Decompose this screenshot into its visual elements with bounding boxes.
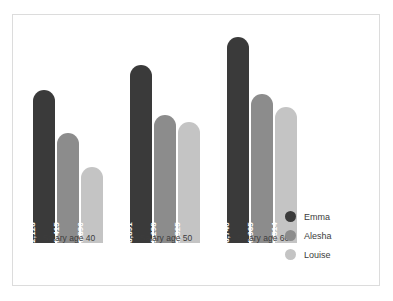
legend-label-emma: Emma <box>304 212 330 222</box>
plot-area: £42,128 £30,415 £20,890 Salary age 40 £4… <box>23 19 313 265</box>
clipped-chart-title <box>0 0 393 9</box>
bars-row: £42,128 £30,415 £20,890 <box>33 19 105 243</box>
bar-louise-age40[interactable]: £20,890 <box>81 167 103 243</box>
legend-label-louise: Louise <box>304 250 331 260</box>
legend-item-emma[interactable]: Emma <box>285 207 365 226</box>
bar-group-salary-age-40: £42,128 £30,415 £20,890 Salary age 40 <box>33 19 105 243</box>
bar-alesha-age60[interactable]: £40,965 <box>251 94 273 243</box>
chart-card: £42,128 £30,415 £20,890 Salary age 40 £4… <box>12 14 380 286</box>
x-axis-label-salary-age-50: Salary age 50 <box>130 233 202 243</box>
bars-row: £48,891 £35,298 £33,325 <box>130 19 202 243</box>
bar-group-salary-age-50: £48,891 £35,298 £33,325 Salary age 50 <box>130 19 202 243</box>
legend-swatch-circle-icon <box>285 211 296 222</box>
legend-swatch-circle-icon <box>285 249 296 260</box>
bar-emma-age60[interactable]: £56,740 <box>227 37 249 243</box>
x-axis-label-salary-age-40: Salary age 40 <box>33 233 105 243</box>
legend-swatch-circle-icon <box>285 230 296 241</box>
legend-label-alesha: Alesha <box>304 231 332 241</box>
bar-emma-age50[interactable]: £48,891 <box>130 65 152 243</box>
chart-legend: Emma Alesha Louise <box>285 207 365 264</box>
bar-emma-age40[interactable]: £42,128 <box>33 90 55 243</box>
bar-louise-age50[interactable]: £33,325 <box>178 122 200 243</box>
legend-item-louise[interactable]: Louise <box>285 245 365 264</box>
legend-item-alesha[interactable]: Alesha <box>285 226 365 245</box>
